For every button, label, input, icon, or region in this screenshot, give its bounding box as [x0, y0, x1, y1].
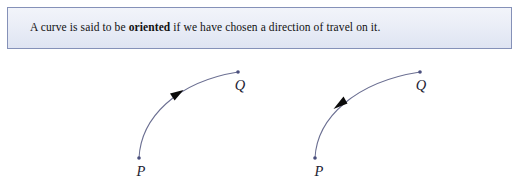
- curve-path-q-to-p: [315, 72, 420, 158]
- definition-term-oriented: oriented: [129, 21, 171, 33]
- endpoint-dot-p: [313, 156, 317, 160]
- definition-text: A curve is said to be oriented if we hav…: [8, 21, 394, 35]
- endpoint-dot-q: [418, 70, 422, 74]
- diagram-p-to-q: P Q: [136, 70, 246, 179]
- endpoint-dot-p: [137, 156, 141, 160]
- point-label-q-2: Q: [416, 77, 427, 93]
- definition-callout-box: A curve is said to be oriented if we hav…: [7, 7, 512, 49]
- definition-text-after: if we have chosen a direction of travel …: [170, 21, 380, 33]
- point-label-p-1: P: [136, 163, 146, 179]
- oriented-curves-figure: P Q P Q: [0, 52, 519, 188]
- figure-area: P Q P Q: [0, 52, 519, 188]
- curve-path-p-to-q: [139, 72, 238, 158]
- point-label-q-1: Q: [235, 77, 246, 93]
- point-label-p-2: P: [314, 163, 324, 179]
- endpoint-dot-q: [236, 70, 240, 74]
- diagram-q-to-p: P Q: [313, 70, 427, 179]
- definition-text-before: A curve is said to be: [30, 21, 129, 33]
